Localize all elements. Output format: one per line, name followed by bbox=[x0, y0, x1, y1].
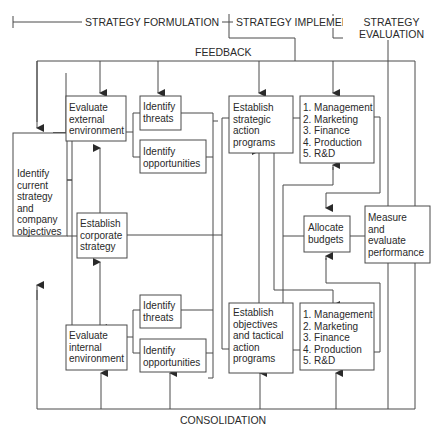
consolidation-label: CONSOLIDATION bbox=[180, 414, 266, 426]
label-corporate-strategy: Establish corporate strategy bbox=[80, 218, 122, 253]
label-tactical-programs: Establish objectives and tactical action… bbox=[233, 307, 284, 365]
label-allocate-budgets: Allocate budgets bbox=[308, 222, 344, 245]
label-functions-bottom: 1. Management 2. Marketing 3. Finance 4.… bbox=[303, 309, 373, 367]
label-functions-top: 1. Management 2. Marketing 3. Finance 4.… bbox=[303, 102, 373, 160]
label-opportunities-top: Identify opportunities bbox=[143, 146, 200, 169]
label-measure-performance: Measure and evaluate performance bbox=[368, 212, 424, 258]
phase-formulation: STRATEGY FORMULATION bbox=[82, 16, 222, 28]
phase-evaluation: STRATEGY EVALUATION bbox=[343, 16, 440, 40]
label-strategic-programs: Establish strategic action programs bbox=[233, 102, 275, 148]
label-threats-top: Identify threats bbox=[143, 101, 175, 124]
label-threats-bottom: Identify threats bbox=[143, 300, 175, 323]
label-eval-internal: Evaluate internal environment bbox=[69, 330, 124, 365]
label-eval-external: Evaluate external environment bbox=[69, 102, 124, 137]
label-opportunities-bottom: Identify opportunities bbox=[143, 345, 200, 368]
label-current-strategy: Identify current strategy and company ob… bbox=[17, 168, 61, 237]
feedback-label: FEEDBACK bbox=[195, 46, 252, 58]
